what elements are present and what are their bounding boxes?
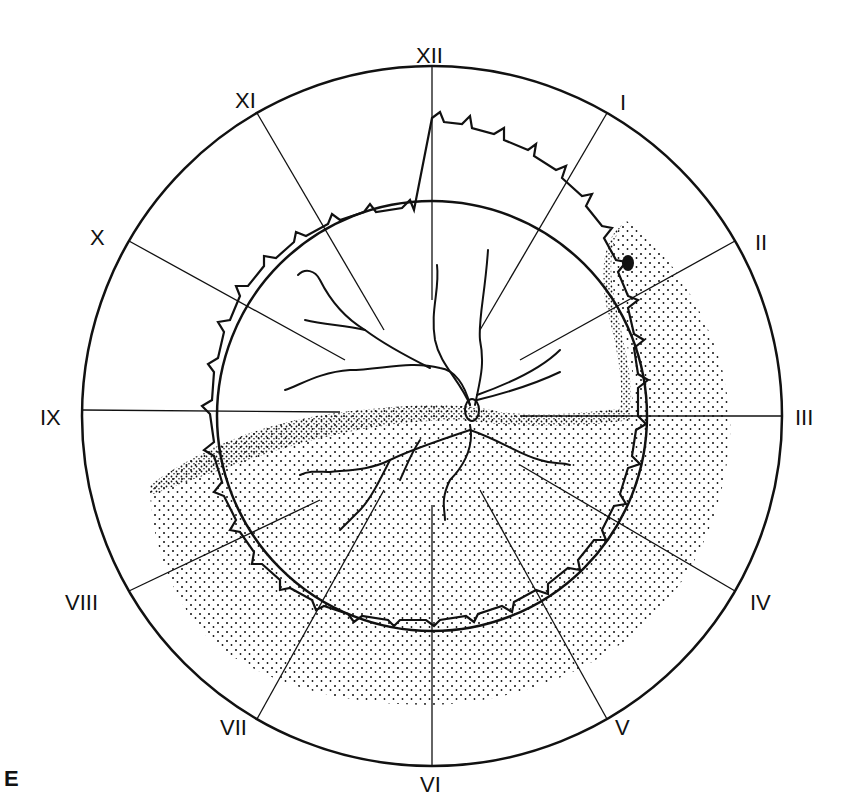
clock-label-iv: IV [750,590,771,615]
clock-label-viii: VIII [65,590,98,615]
clock-label-v: V [615,715,630,740]
clock-label-xi: XI [235,88,256,113]
clock-label-vi: VI [420,772,441,797]
detachment-region [150,220,731,705]
clock-label-i: I [620,90,626,115]
clock-label-iii: III [795,405,813,430]
clock-label-x: X [90,225,105,250]
clock-label-vii: VII [220,715,247,740]
panel-letter: E [4,766,19,792]
clock-label-ix: IX [40,405,61,430]
clock-label-xii: XII [416,43,443,68]
fundus-diagram: XII I II III IV V VI VII VIII IX X XI [0,0,847,802]
clock-label-ii: II [755,230,767,255]
